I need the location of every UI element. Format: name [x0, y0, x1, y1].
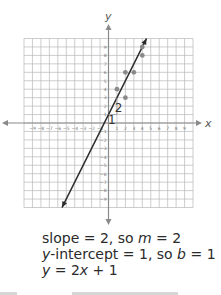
svg-text:−3: −3: [80, 126, 87, 131]
svg-text:8: 8: [104, 53, 107, 58]
svg-text:7: 7: [166, 126, 169, 131]
svg-text:−6: −6: [100, 172, 107, 177]
svg-text:4: 4: [141, 126, 144, 131]
svg-text:2: 2: [124, 126, 127, 131]
svg-text:−6: −6: [54, 126, 61, 131]
svg-text:2: 2: [104, 104, 107, 109]
svg-text:2: 2: [115, 101, 123, 115]
svg-text:5: 5: [104, 79, 107, 84]
axes: [2, 24, 202, 225]
variable-m: m: [138, 230, 152, 246]
x-axis-label: x: [204, 117, 212, 130]
svg-text:−8: −8: [38, 126, 45, 131]
svg-text:−7: −7: [100, 180, 107, 185]
text: = 2: [50, 262, 80, 278]
text: -intercept = 1, so: [50, 246, 177, 262]
svg-text:5: 5: [149, 126, 152, 131]
text: = 2: [152, 230, 182, 246]
svg-text:1: 1: [116, 126, 119, 131]
svg-text:−7: −7: [46, 126, 53, 131]
svg-text:−4: −4: [71, 126, 78, 131]
y-axis-label: y: [104, 10, 112, 23]
svg-text:6: 6: [158, 126, 161, 131]
svg-text:−5: −5: [63, 126, 70, 131]
svg-text:6: 6: [104, 70, 107, 75]
svg-text:−4: −4: [100, 155, 107, 160]
svg-text:−5: −5: [100, 163, 107, 168]
svg-text:8: 8: [175, 126, 178, 131]
svg-text:4: 4: [104, 87, 107, 92]
text: slope = 2, so: [42, 230, 138, 246]
svg-text:3: 3: [104, 95, 107, 100]
equation-statement: y = 2x + 1: [42, 262, 118, 278]
svg-text:−9: −9: [100, 197, 107, 202]
intercept-statement: y-intercept = 1, so b = 1: [42, 246, 216, 262]
svg-text:−2: −2: [100, 138, 107, 143]
svg-text:1: 1: [104, 112, 107, 117]
text: = 1: [186, 246, 216, 262]
slope-statement: slope = 2, so m = 2: [42, 230, 181, 246]
svg-text:3: 3: [132, 126, 135, 131]
scatter-plot-chart: −9−8−7−6−5−4−3−2−1123456789−9−8−7−6−5−4−…: [0, 0, 221, 230]
svg-text:−9: −9: [29, 126, 36, 131]
svg-text:9: 9: [183, 126, 186, 131]
text: + 1: [88, 262, 118, 278]
svg-text:−3: −3: [100, 146, 107, 151]
svg-text:9: 9: [104, 45, 107, 50]
variable-b: b: [177, 246, 186, 262]
svg-text:7: 7: [104, 62, 107, 67]
svg-text:−8: −8: [100, 188, 107, 193]
variable-x: x: [80, 262, 88, 278]
svg-text:−2: −2: [88, 126, 95, 131]
svg-text:1: 1: [108, 113, 116, 127]
